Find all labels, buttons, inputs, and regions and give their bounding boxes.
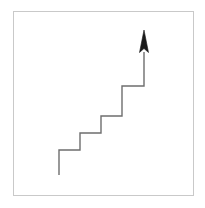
staircase-arrow-figure <box>0 0 205 208</box>
figure-root: Ascending staircase with upward arrow Li… <box>0 0 205 208</box>
figure-background <box>0 0 205 208</box>
